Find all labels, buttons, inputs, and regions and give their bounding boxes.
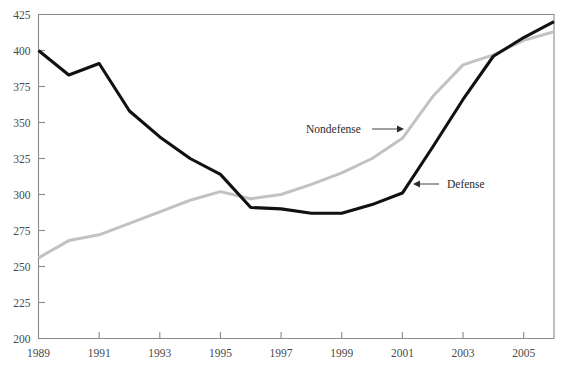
y-tick-label: 225 — [13, 297, 31, 309]
x-tick-label: 1991 — [88, 347, 111, 359]
annotation-arrow-head — [413, 181, 420, 188]
series-line-nondefense — [39, 32, 555, 258]
x-tick-label: 2001 — [391, 347, 414, 359]
y-tick-label: 300 — [13, 189, 31, 201]
y-tick-label: 425 — [13, 9, 31, 21]
x-tick-label: 2005 — [512, 347, 535, 359]
x-tick-label: 1999 — [330, 347, 353, 359]
y-tick-label: 250 — [13, 261, 31, 273]
line-chart: 200225250275300325350375400425 198919911… — [0, 0, 563, 383]
y-tick-label: 325 — [13, 153, 31, 165]
y-tick-label: 400 — [13, 45, 31, 57]
x-tick-label: 2003 — [452, 347, 475, 359]
y-axis-ticks: 200225250275300325350375400425 — [13, 9, 45, 345]
x-tick-label: 1989 — [27, 347, 50, 359]
x-tick-label: 1995 — [209, 347, 232, 359]
x-axis-ticks: 198919911993199519971999200120032005 — [27, 332, 535, 359]
series-annotations: NondefenseDefense — [306, 123, 485, 190]
annotation-arrow-head — [397, 126, 404, 133]
annotation-label-defense: Defense — [447, 178, 485, 190]
y-tick-label: 350 — [13, 117, 31, 129]
y-tick-label: 375 — [13, 81, 31, 93]
chart-container: 200225250275300325350375400425 198919911… — [0, 0, 563, 383]
x-tick-label: 1993 — [148, 347, 171, 359]
annotation-label-nondefense: Nondefense — [306, 123, 361, 135]
y-tick-label: 275 — [13, 225, 31, 237]
axis-frame — [39, 15, 555, 339]
x-tick-label: 1997 — [270, 347, 293, 359]
y-tick-label: 200 — [13, 333, 31, 345]
